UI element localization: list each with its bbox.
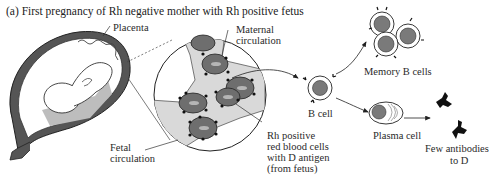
- label-plasma-cell: Plasma cell: [373, 130, 421, 141]
- plasma-cell: [369, 102, 403, 124]
- label-antibodies-1: Few antibodies: [425, 143, 489, 154]
- label-antibodies-2: to D: [450, 155, 468, 166]
- label-maternal-circulation-1: Maternal: [236, 24, 274, 35]
- arrow-to-memory-cells: [336, 42, 366, 74]
- memory-b-cells: [369, 7, 424, 58]
- uterus-illustration: [10, 31, 130, 160]
- label-rh-cells-1: Rh positive: [267, 130, 315, 141]
- label-rh-cells-4: (from fetus): [267, 163, 317, 174]
- label-memory-b-cells: Memory B cells: [364, 66, 432, 77]
- label-fetal-circulation-1: Fetal: [110, 142, 131, 153]
- label-b-cell: B cell: [308, 108, 333, 119]
- label-fetal-circulation-2: circulation: [110, 153, 155, 164]
- magnified-placenta-circle: [145, 30, 266, 151]
- zoom-leader-top: [127, 40, 172, 62]
- label-maternal-circulation-2: circulation: [236, 35, 281, 46]
- label-rh-cells-2: red blood cells: [267, 141, 329, 152]
- label-placenta: Placenta: [113, 22, 149, 33]
- label-rh-cells-3: with D antigen: [267, 152, 329, 163]
- antibody-icon: [436, 92, 467, 139]
- b-cell: [303, 74, 336, 103]
- arrow-to-plasma-cell: [336, 98, 368, 112]
